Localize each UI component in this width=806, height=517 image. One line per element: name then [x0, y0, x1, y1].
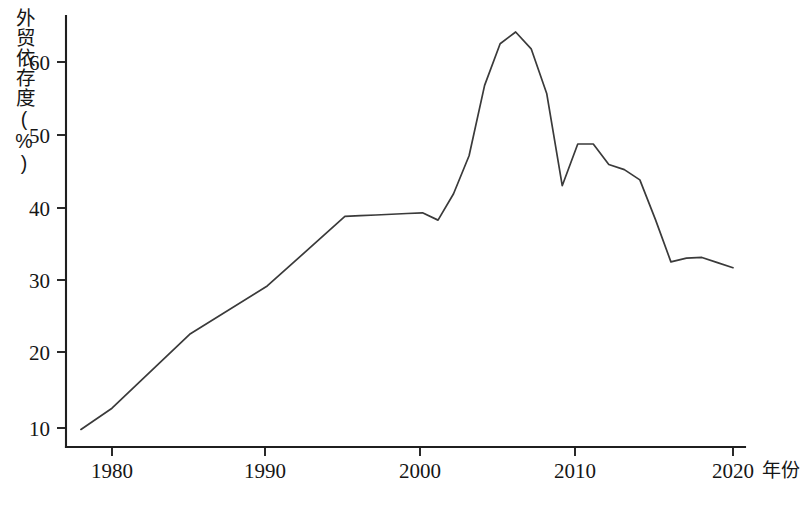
axes-group	[66, 16, 745, 447]
x-axis-tick-labels: 1980 1990 2000 2010 2020	[91, 459, 754, 483]
y-tick-label-10: 10	[29, 417, 50, 441]
y-tick-label-20: 20	[29, 341, 50, 365]
x-axis-ticks	[112, 447, 733, 456]
y-tick-label-30: 30	[29, 269, 50, 293]
x-tick-label-1980: 1980	[91, 459, 133, 483]
y-axis-tick-labels: 10 20 30 40 50 60	[29, 51, 50, 441]
x-tick-label-1990: 1990	[244, 459, 286, 483]
x-tick-label-2010: 2010	[554, 459, 596, 483]
y-axis-ticks	[57, 62, 66, 428]
chart-container: 外贸依存度(%) 10 20 30 40 50 60	[0, 0, 806, 517]
x-axis-title: 年份	[762, 460, 800, 481]
x-tick-label-2000: 2000	[399, 459, 441, 483]
y-tick-label-40: 40	[29, 197, 50, 221]
y-tick-label-60: 60	[29, 51, 50, 75]
y-tick-label-50: 50	[29, 124, 50, 148]
x-tick-label-2020: 2020	[712, 459, 754, 483]
line-chart-figure: 10 20 30 40 50 60 1980 1990 2000 2010 20…	[0, 0, 806, 517]
data-series-line	[81, 32, 733, 429]
